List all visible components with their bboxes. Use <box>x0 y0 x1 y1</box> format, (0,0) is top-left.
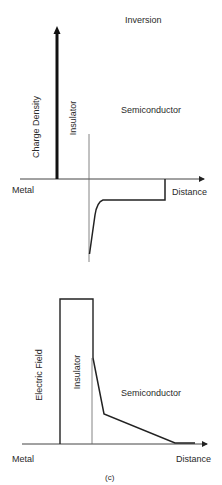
inversion-title: Inversion <box>125 16 162 25</box>
electric-field-label: Electric Field <box>35 349 44 401</box>
semiconductor-charge-curve <box>90 179 166 254</box>
distance-label-top: Distance <box>172 188 207 197</box>
diagram-canvas <box>0 0 222 485</box>
metal-label-top: Metal <box>12 186 34 195</box>
semiconductor-field-curve <box>93 358 195 443</box>
metal-charge-arrowhead <box>54 26 61 34</box>
electric-field-panel <box>22 299 207 444</box>
metal-label-bottom: Metal <box>12 455 34 464</box>
figure-caption: (c) <box>105 474 114 482</box>
insulator-label-bottom: Insulator <box>73 355 82 390</box>
insulator-label-top: Insulator <box>69 101 78 136</box>
charge-density-panel <box>20 26 204 262</box>
semiconductor-label-bottom: Semiconductor <box>121 389 181 398</box>
distance-label-bottom: Distance <box>176 455 211 464</box>
charge-density-label: Charge Density <box>32 96 41 158</box>
semiconductor-label-top: Semiconductor <box>121 106 181 115</box>
